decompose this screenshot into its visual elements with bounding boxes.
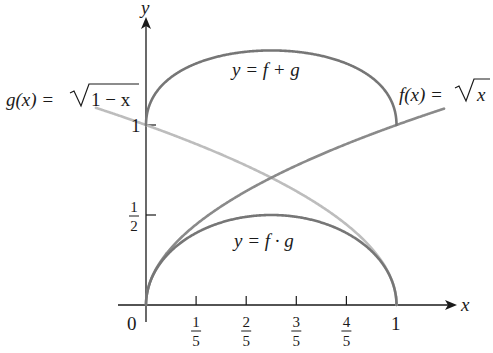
svg-text:5: 5 <box>242 333 250 349</box>
svg-text:g(x) =: g(x) = <box>6 89 54 111</box>
curve-g-sqrt-1-minus-x <box>96 108 397 305</box>
f-label-lhs: f(x) = <box>399 84 443 106</box>
function-graph: y x 0 1 1 15253545 12 g(x) = 1 − x f(x) … <box>0 0 493 353</box>
fraction-label: 45 <box>341 314 351 349</box>
g-label-lhs: g(x) = <box>6 89 54 111</box>
f-label-radicand: x <box>476 84 486 105</box>
svg-text:1: 1 <box>192 314 200 330</box>
y-fraction-tick-labels: 12 <box>129 199 139 234</box>
x-fraction-tick-labels: 15253545 <box>191 314 351 349</box>
origin-label: 0 <box>127 313 137 334</box>
y-tick-label-1: 1 <box>131 115 141 136</box>
g-function-annotation: g(x) = 1 − x <box>6 84 139 111</box>
svg-text:2: 2 <box>242 314 250 330</box>
fraction-label: 12 <box>129 199 139 234</box>
fraction-label: 35 <box>291 314 301 349</box>
x-tick-label-1: 1 <box>391 313 401 334</box>
svg-text:5: 5 <box>192 333 200 349</box>
svg-text:5: 5 <box>343 333 351 349</box>
product-curve-label: y = f · g <box>232 230 294 251</box>
svg-text:5: 5 <box>293 333 301 349</box>
svg-text:4: 4 <box>343 314 351 330</box>
y-axis-label: y <box>139 0 150 18</box>
fraction-label: 25 <box>241 314 251 349</box>
svg-text:2: 2 <box>130 218 138 234</box>
g-label-radicand: 1 − x <box>91 89 131 110</box>
svg-text:1: 1 <box>130 199 138 215</box>
x-axis-label: x <box>460 294 470 315</box>
f-function-annotation: f(x) = x <box>399 79 490 106</box>
curve-f-sqrt-x <box>146 109 444 305</box>
svg-text:3: 3 <box>293 314 301 330</box>
sum-curve-label: y = f + g <box>230 59 300 80</box>
fraction-label: 15 <box>191 314 201 349</box>
curve-f-times-g <box>146 215 397 305</box>
